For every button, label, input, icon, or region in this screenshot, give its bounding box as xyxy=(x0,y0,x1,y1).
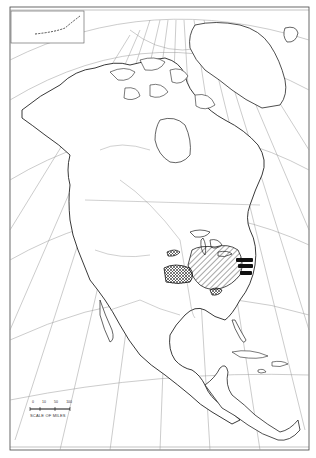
scale-ticks: 0 10 50 100 xyxy=(32,400,72,404)
scale-tick: 10 xyxy=(42,400,46,404)
north-america-map xyxy=(0,0,316,458)
scale-tick: 100 xyxy=(66,400,72,404)
aleutian-inset xyxy=(11,11,84,43)
scale-tick: 0 xyxy=(32,400,34,404)
stippled-region-plains xyxy=(164,265,193,284)
scale-label: SCALE OF MILES xyxy=(30,413,66,418)
scale-tick: 50 xyxy=(54,400,58,404)
